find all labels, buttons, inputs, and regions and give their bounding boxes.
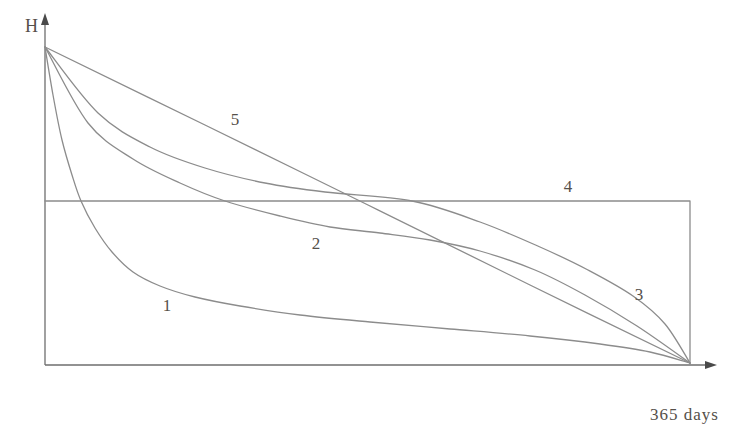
curve-label-3: 3 — [635, 286, 644, 303]
curve-label-1: 1 — [163, 297, 172, 314]
x-axis-label: 365 days — [650, 406, 719, 423]
duration-curve-figure: H 365 days 12345 — [0, 0, 737, 446]
curve-label-5: 5 — [231, 111, 240, 128]
curve-4-line — [45, 201, 690, 364]
y-axis-label: H — [25, 17, 38, 35]
x-axis-arrowhead-icon — [705, 361, 717, 369]
curve-label-4: 4 — [564, 178, 573, 195]
curve-label-2: 2 — [312, 235, 321, 252]
y-axis-arrowhead-icon — [41, 13, 49, 25]
figure-page: H 365 days 12345 — [0, 0, 737, 446]
curves-canvas — [0, 0, 737, 446]
curve-5-line — [45, 47, 690, 363]
